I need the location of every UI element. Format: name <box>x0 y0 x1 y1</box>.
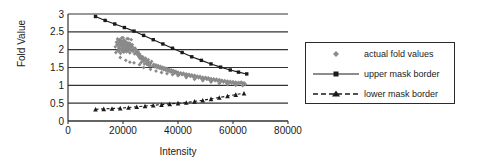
chart-figure: Fold Value 3 2.5 2 1.5 1 0.5 0 0 20000 4… <box>0 0 482 166</box>
scatter-point <box>160 71 164 75</box>
square-marker <box>229 68 232 71</box>
line-square-marker-icon <box>310 64 362 84</box>
square-marker <box>94 15 97 18</box>
triangle-marker <box>242 91 247 96</box>
scatter-point <box>128 60 132 64</box>
square-marker <box>237 70 240 73</box>
square-marker <box>180 51 183 54</box>
square-marker <box>171 47 174 50</box>
scatter-point <box>154 69 158 73</box>
scatter-point <box>124 58 128 62</box>
square-marker <box>161 42 164 45</box>
legend-label: lower mask border <box>364 89 438 99</box>
scatter-point <box>118 56 122 60</box>
square-marker <box>152 38 155 41</box>
legend-entry-actual-fold-values: actual fold values <box>306 44 456 64</box>
legend-label: actual fold values <box>364 49 434 59</box>
square-marker <box>103 19 106 22</box>
square-marker <box>142 34 145 37</box>
square-marker <box>190 55 193 58</box>
scatter-point <box>142 66 146 70</box>
legend-entry-upper-mask-border: upper mask border <box>306 64 456 84</box>
square-marker <box>219 65 222 68</box>
scatter-series-actual-fold-values <box>113 36 247 88</box>
scatter-point <box>132 61 136 65</box>
scatter-point <box>129 38 133 42</box>
legend-label: upper mask border <box>364 69 440 79</box>
legend-entry-lower-mask-border: lower mask border <box>306 84 456 104</box>
square-marker <box>200 59 203 62</box>
line-series-lower-mask-border <box>93 91 246 112</box>
diamond-marker-icon <box>310 44 362 64</box>
dashed-line-triangle-marker-icon <box>310 84 362 104</box>
square-marker <box>209 62 212 65</box>
chart-legend: actual fold values upper mask border low… <box>305 42 455 104</box>
square-marker <box>245 72 248 75</box>
square-marker <box>123 26 126 29</box>
line-path <box>96 93 245 109</box>
square-marker <box>113 22 116 25</box>
square-marker <box>132 29 135 32</box>
